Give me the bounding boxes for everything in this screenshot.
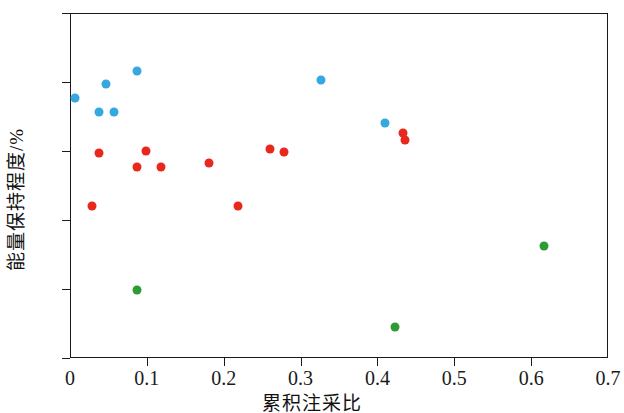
x-axis-tick-label: 0.6 [501,368,561,388]
x-axis-tick-label: 0.4 [347,368,407,388]
data-point [110,107,119,116]
x-axis-tick-label: 0.3 [271,368,331,388]
scatter-chart: 758085909510000.10.20.30.40.50.60.7 累积注采… [0,0,624,413]
data-point [401,135,410,144]
data-point [391,323,400,332]
x-axis-tick [377,358,378,366]
plot-area [70,13,608,358]
data-point [133,286,142,295]
x-axis-tick-label: 0.7 [578,368,624,388]
x-axis-tick [147,358,148,366]
data-point [133,163,142,172]
x-axis-label: 累积注采比 [0,388,624,413]
y-axis-tick [62,220,70,221]
data-point [204,159,213,168]
data-point [266,145,275,154]
data-points-layer [71,14,607,357]
data-point [141,146,150,155]
x-axis-tick-label: 0 [40,368,100,388]
y-axis-tick [62,82,70,83]
data-point [381,119,390,128]
x-axis-tick [531,358,532,366]
x-axis-tick [301,358,302,366]
data-point [95,107,104,116]
y-axis-tick [62,358,70,359]
data-point [156,163,165,172]
data-point [540,241,549,250]
y-axis-tick [62,13,70,14]
x-axis-tick [224,358,225,366]
data-point [133,66,142,75]
y-axis-tick [62,151,70,152]
x-axis-tick-label: 0.2 [194,368,254,388]
x-axis-tick-label: 0.5 [424,368,484,388]
data-point [233,201,242,210]
y-axis-tick [62,289,70,290]
data-point [316,76,325,85]
data-point [70,94,79,103]
data-point [102,80,111,89]
x-axis-tick [454,358,455,366]
data-point [279,148,288,157]
data-point [87,201,96,210]
x-axis-tick-label: 0.1 [117,368,177,388]
y-axis-label: 能量保持程度/% [1,90,28,310]
data-point [95,149,104,158]
